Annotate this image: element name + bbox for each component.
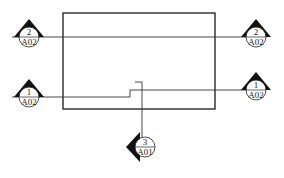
section-line-1 <box>12 90 266 97</box>
marker-number: 1 <box>27 87 32 97</box>
section-marker-bottom-3[interactable]: 3 A01 <box>126 132 155 162</box>
building-outline <box>63 13 215 109</box>
marker-number: 1 <box>254 80 259 90</box>
marker-sheet: A02 <box>248 37 264 47</box>
plan-drawing: 2 A02 2 A02 1 A02 1 A02 <box>0 0 284 178</box>
marker-number: 2 <box>254 27 259 37</box>
section-marker-right-1[interactable]: 1 A02 <box>241 72 271 100</box>
marker-sheet: A02 <box>248 90 264 100</box>
marker-number: 3 <box>143 137 148 147</box>
marker-sheet: A02 <box>21 97 37 107</box>
section-marker-right-2[interactable]: 2 A02 <box>241 19 271 47</box>
section-marker-left-2[interactable]: 2 A02 <box>14 19 44 47</box>
plan-diagram: 2 A02 2 A02 1 A02 1 A02 <box>0 0 284 178</box>
marker-sheet: A02 <box>21 37 37 47</box>
section-marker-left-1[interactable]: 1 A02 <box>14 79 44 107</box>
marker-sheet: A01 <box>137 147 153 157</box>
marker-number: 2 <box>27 27 32 37</box>
